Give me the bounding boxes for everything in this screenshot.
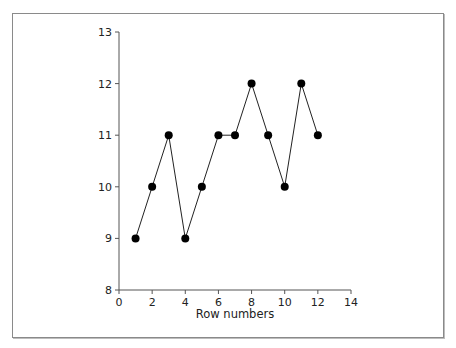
data-point-marker [214,131,222,139]
data-point-marker [132,234,140,242]
y-tick-label: 9 [105,232,112,245]
x-tick-label: 14 [344,296,358,309]
x-tick-label: 0 [116,296,123,309]
data-point-marker [198,183,206,191]
y-tick-label: 12 [98,78,112,91]
y-tick-label: 13 [98,26,112,39]
x-tick-label: 4 [182,296,189,309]
data-point-marker [281,183,289,191]
x-tick-label: 12 [311,296,325,309]
line-chart: 8910111213 02468101214 Row numbers [0,0,456,348]
x-axis-title: Row numbers [196,307,274,321]
y-axis-ticks: 8910111213 [98,26,119,297]
data-point-marker [297,80,305,88]
data-point-marker [231,131,239,139]
y-tick-label: 11 [98,129,112,142]
data-point-marker [165,131,173,139]
data-point-marker [248,80,256,88]
x-tick-label: 2 [149,296,156,309]
data-point-marker [264,131,272,139]
y-tick-label: 10 [98,181,112,194]
data-point-marker [181,234,189,242]
x-tick-label: 10 [278,296,292,309]
data-series [132,80,322,243]
axes [119,32,351,290]
series-line [136,84,318,239]
data-point-marker [148,183,156,191]
y-tick-label: 8 [105,284,112,297]
data-point-marker [314,131,322,139]
